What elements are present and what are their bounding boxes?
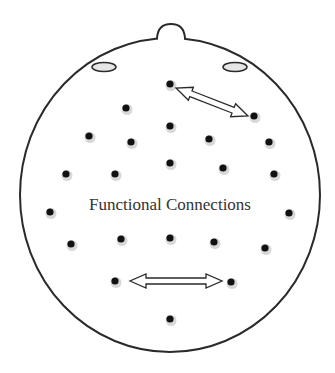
- electrode-icon: [285, 209, 296, 220]
- connection-arrows: [130, 87, 248, 288]
- nose-icon: [157, 24, 185, 38]
- electrode-icon: [111, 277, 122, 288]
- electrode-icon: [166, 122, 177, 133]
- eye-marker-icon: [223, 63, 247, 72]
- eeg-functional-connections-diagram: Functional Connections: [0, 0, 335, 373]
- electrode-icon: [265, 138, 276, 149]
- eye-marker-icon: [92, 63, 116, 72]
- electrode-icon: [166, 80, 177, 91]
- center-label: Functional Connections: [89, 195, 251, 214]
- electrode-icon: [210, 238, 221, 249]
- electrode-icon: [111, 170, 122, 181]
- electrode-icon: [122, 104, 133, 115]
- electrode-icon: [166, 159, 177, 170]
- electrode-icon: [166, 234, 177, 245]
- electrode-icon: [67, 240, 78, 251]
- head-outline: [20, 24, 320, 352]
- electrode-icon: [270, 170, 281, 181]
- electrode-icon: [261, 244, 272, 255]
- electrode-icon: [46, 208, 57, 219]
- electrode-icon: [205, 135, 216, 146]
- electrode-icon: [227, 278, 238, 289]
- electrode-icon: [219, 164, 230, 175]
- electrode-icon: [127, 138, 138, 149]
- eye-markers: [92, 63, 247, 72]
- double-arrow-icon: [130, 274, 222, 288]
- electrode-icon: [117, 235, 128, 246]
- electrode-icon: [62, 170, 73, 181]
- double-arrow-icon: [176, 87, 248, 116]
- electrode-icon: [85, 132, 96, 143]
- electrode-icon: [166, 315, 177, 326]
- electrode-icon: [250, 112, 261, 123]
